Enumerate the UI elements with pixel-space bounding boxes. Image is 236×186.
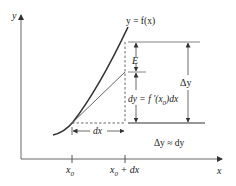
x-axis-label: x (216, 165, 222, 176)
tick-label-x0: x0 (65, 164, 74, 178)
error-label: E (131, 55, 138, 66)
tangent-line (70, 72, 125, 125)
approx-label: Δy ≈ dy (154, 138, 185, 148)
delta-y-label: Δy (180, 77, 191, 88)
curve-label: y = f(x) (126, 16, 155, 27)
dx-label: dx (93, 126, 103, 136)
differential-diagram: y x y = f(x) E Δy dy = f ′(x0)dx dx Δy ≈… (0, 0, 236, 186)
curve-f (53, 27, 128, 135)
y-axis-label: y (11, 10, 17, 21)
tick-label-x0-dx: x0 + dx (109, 164, 140, 178)
